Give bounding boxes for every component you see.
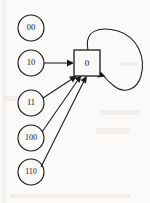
diagram-graphic: 00 10 11 100 110 [0,0,150,203]
node-100-label: 100 [25,133,37,142]
edge-10-arrowhead [67,60,74,67]
node-11[interactable]: 11 [18,90,44,116]
node-100[interactable]: 100 [18,125,44,151]
node-110-label: 110 [25,167,37,176]
node-10-label: 10 [27,57,36,67]
node-11-label: 11 [27,97,35,107]
edge-110-to-0 [41,76,87,167]
node-00-label: 00 [27,22,36,32]
edge-11-to-0 [43,76,77,98]
node-110[interactable]: 110 [18,159,44,185]
node-00[interactable]: 00 [18,15,44,41]
diagram-canvas: 00 10 11 100 110 [0,0,150,203]
node-10[interactable]: 10 [18,50,44,76]
node-0-label: 0 [85,58,90,68]
edge-11-arrowhead [69,76,77,83]
edge-10-to-0 [44,60,74,67]
node-0-square[interactable]: 0 [74,50,100,76]
edge-100-to-0 [42,76,82,133]
